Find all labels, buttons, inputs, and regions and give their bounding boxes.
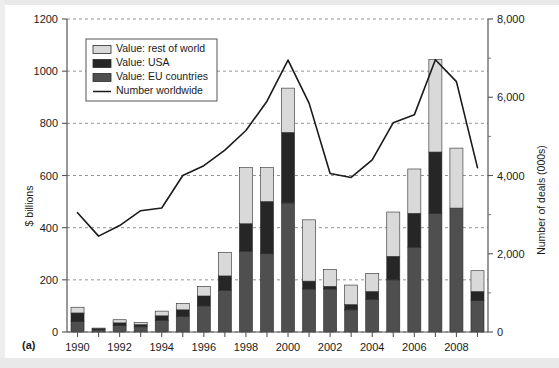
bar-segment-usa — [387, 256, 400, 279]
bar-segment-eu — [71, 322, 84, 332]
left-tick-label: 1200 — [34, 13, 58, 25]
x-tick-label: 2002 — [318, 341, 342, 353]
bar-segment-usa — [134, 325, 147, 327]
bar-segment-usa — [303, 281, 316, 289]
bar-segment-usa — [71, 313, 84, 322]
bar-segment-eu — [387, 280, 400, 332]
bar-segment-eu — [345, 310, 358, 332]
bar-segment-row — [345, 285, 358, 305]
x-tick-label: 1992 — [107, 341, 131, 353]
left-tick-label: 200 — [40, 274, 58, 286]
bar-segment-usa — [176, 310, 189, 317]
left-tick-label: 600 — [40, 170, 58, 182]
x-axis-tick-labels: 1990199219941996199820002002200420062008 — [65, 341, 468, 353]
left-axis-ticks — [62, 19, 67, 332]
bar-segment-usa — [345, 305, 358, 310]
stacked-bar — [282, 88, 295, 332]
stacked-bar — [324, 269, 337, 332]
bar-segment-eu — [471, 301, 484, 332]
bar-swatch-mid — [93, 74, 111, 82]
bar-segment-eu — [366, 299, 379, 332]
bar-segment-eu — [324, 289, 337, 332]
bar-segment-row — [155, 311, 168, 316]
legend-label: Value: EU countries — [116, 70, 208, 82]
x-tick-label: 1996 — [192, 341, 216, 353]
stacked-bar — [408, 169, 421, 332]
bar-segment-usa — [113, 323, 126, 326]
bar-segment-row — [218, 252, 231, 275]
bar-segment-eu — [176, 316, 189, 332]
legend-label: Value: rest of world — [116, 42, 205, 54]
bar-segment-usa — [408, 213, 421, 247]
bar-segment-row — [408, 169, 421, 213]
bar-segment-eu — [134, 327, 147, 332]
stacked-bar — [450, 148, 463, 332]
bar-segment-usa — [197, 296, 210, 306]
bar-segment-row — [387, 212, 400, 256]
stacked-bar — [429, 59, 442, 332]
stacked-bar — [71, 307, 84, 332]
bar-segment-row — [282, 88, 295, 132]
stacked-bar — [260, 168, 273, 332]
bar-segment-usa — [471, 292, 484, 301]
right-axis-title: Number of deals (000s) — [535, 145, 547, 255]
bar-segment-eu — [197, 306, 210, 332]
bar-segment-row — [239, 168, 252, 224]
bar-segment-eu — [429, 213, 442, 332]
bar-segment-row — [450, 148, 463, 208]
left-tick-label: 1000 — [34, 65, 58, 77]
stacked-bar — [366, 273, 379, 332]
stacked-bar — [345, 285, 358, 332]
bar-segment-usa — [260, 202, 273, 254]
chart-legend: Value: rest of worldValue: USAValue: EU … — [86, 39, 217, 101]
right-axis-ticks — [488, 19, 493, 332]
bar-segment-usa — [282, 132, 295, 202]
x-axis-ticks — [78, 332, 478, 337]
bar-segment-usa — [218, 276, 231, 290]
scan-edge-top — [0, 0, 559, 5]
bar-segment-row — [303, 220, 316, 281]
bar-swatch-light — [93, 46, 111, 54]
bar-segment-row — [324, 269, 337, 286]
bar-line-combo-chart: 020040060080010001200 02,0004,0006,0008,… — [0, 0, 559, 368]
bar-segment-row — [176, 303, 189, 310]
bar-segment-row — [71, 307, 84, 313]
x-tick-label: 2006 — [402, 341, 426, 353]
left-tick-label: 0 — [52, 326, 58, 338]
stacked-bar — [113, 320, 126, 332]
stacked-bar — [176, 303, 189, 332]
stacked-bar — [303, 220, 316, 332]
bar-swatch-dark — [93, 60, 111, 68]
bar-segment-eu — [450, 208, 463, 332]
right-tick-label: 0 — [497, 326, 503, 338]
bar-segment-eu — [239, 251, 252, 332]
stacked-bar — [387, 212, 400, 332]
bar-segment-eu — [218, 290, 231, 332]
scan-edge-left — [0, 0, 5, 368]
stacked-bar — [197, 286, 210, 332]
bar-segment-eu — [260, 254, 273, 332]
bar-segment-eu — [408, 247, 421, 332]
right-axis-tick-labels: 02,0004,0006,0008,000 — [497, 13, 525, 338]
right-tick-label: 8,000 — [497, 13, 525, 25]
stacked-bar — [134, 322, 147, 332]
panel-label: (a) — [22, 339, 36, 351]
bar-segment-row — [471, 271, 484, 292]
left-tick-label: 800 — [40, 117, 58, 129]
left-tick-label: 400 — [40, 222, 58, 234]
legend-label: Number worldwide — [116, 84, 203, 96]
stacked-bar — [155, 311, 168, 332]
bar-segment-usa — [155, 316, 168, 320]
bar-segment-row — [260, 168, 273, 202]
stacked-bar — [239, 168, 252, 332]
bar-segment-row — [92, 328, 105, 329]
stacked-bar — [471, 271, 484, 332]
bar-segment-eu — [282, 203, 295, 332]
x-tick-label: 2008 — [444, 341, 468, 353]
bar-segment-usa — [239, 224, 252, 251]
left-axis-title: $ billions — [23, 186, 35, 227]
left-axis-tick-labels: 020040060080010001200 — [34, 13, 58, 338]
x-tick-label: 2004 — [360, 341, 384, 353]
scan-edge-bottom — [0, 358, 559, 368]
bar-segment-row — [197, 286, 210, 296]
